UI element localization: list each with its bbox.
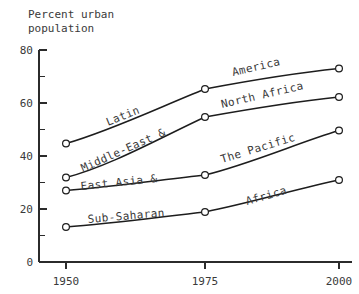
line-chart: Percent urban population 80 60 40 20 0 1… xyxy=(0,0,359,294)
series-label-sub-saharan-africa-trail: Africa xyxy=(244,184,288,208)
series-marker xyxy=(202,114,209,121)
chart-title-line-1: Percent urban xyxy=(28,8,114,21)
series-marker xyxy=(336,65,343,72)
series-marker xyxy=(336,127,343,134)
series-label-latin-america-lead: Latin xyxy=(104,104,141,129)
series-label-sub-saharan-africa-lead: Sub-Saharan xyxy=(87,206,165,226)
y-tick-label-40: 40 xyxy=(20,150,33,163)
series-marker xyxy=(202,86,209,93)
series-marker xyxy=(63,140,70,147)
x-tick-label-2000: 2000 xyxy=(326,275,353,288)
series-line-middle-east-north-africa xyxy=(66,97,339,178)
series-marker xyxy=(63,187,70,194)
y-tick-label-0: 0 xyxy=(26,256,33,269)
series-marker xyxy=(336,177,343,184)
series-label-east-asia-pacific-lead: East Asia & xyxy=(80,172,158,193)
y-tick-label-80: 80 xyxy=(20,44,33,57)
chart-container: Percent urban population 80 60 40 20 0 1… xyxy=(0,0,359,294)
x-tick-label-1975: 1975 xyxy=(192,275,219,288)
y-tick-label-20: 20 xyxy=(20,203,33,216)
series-marker xyxy=(202,172,209,179)
series-marker xyxy=(63,224,70,231)
series-marker xyxy=(63,174,70,181)
x-tick-label-1950: 1950 xyxy=(53,275,80,288)
y-tick-label-60: 60 xyxy=(20,97,33,110)
series-label-middle-east-north-africa-lead: Middle-East & xyxy=(79,126,168,175)
series-marker xyxy=(202,209,209,216)
series-marker xyxy=(336,94,343,101)
series-label-latin-america-trail: America xyxy=(231,55,282,79)
chart-title-line-2: population xyxy=(28,22,94,35)
